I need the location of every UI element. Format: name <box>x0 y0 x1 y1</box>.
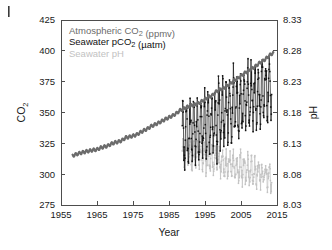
data-point <box>251 160 253 162</box>
data-point <box>205 176 207 178</box>
data-point <box>221 112 223 114</box>
data-point <box>232 94 234 96</box>
x-axis-tick-label: 1965 <box>86 209 107 220</box>
data-point <box>240 93 242 95</box>
x-axis-tick-label: 1955 <box>50 209 71 220</box>
data-point <box>225 156 227 158</box>
data-point <box>196 153 198 155</box>
data-point <box>238 171 240 173</box>
data-point <box>263 117 265 119</box>
data-point <box>254 73 256 75</box>
data-point <box>259 105 261 107</box>
data-point <box>194 125 196 127</box>
data-point <box>266 169 268 171</box>
data-point <box>202 140 204 142</box>
data-point <box>250 107 252 109</box>
figure-container: 2753003253503754004258.038.088.138.188.2… <box>0 0 332 250</box>
data-point <box>269 168 271 170</box>
data-point <box>266 173 268 175</box>
data-point <box>242 121 244 123</box>
legend-entry: Seawater pH <box>69 47 124 58</box>
data-point <box>241 170 243 172</box>
data-point <box>239 95 241 97</box>
data-point <box>227 114 229 116</box>
data-point <box>210 158 212 160</box>
data-point <box>263 104 265 106</box>
data-point <box>248 94 250 96</box>
data-point <box>189 97 191 99</box>
data-point <box>240 84 242 86</box>
data-point <box>189 123 191 125</box>
data-point <box>224 123 226 125</box>
data-point <box>254 173 256 175</box>
data-point <box>227 144 229 146</box>
data-point <box>195 165 197 167</box>
data-point <box>228 171 230 173</box>
data-point <box>214 157 216 159</box>
data-point <box>255 166 256 168</box>
data-point <box>267 122 269 124</box>
y2-axis-tick-label: 8.08 <box>283 169 302 180</box>
data-point <box>217 143 219 145</box>
data-point <box>245 130 247 132</box>
data-point <box>206 146 208 148</box>
data-point <box>210 135 212 137</box>
x-axis-tick-label: 2015 <box>266 209 287 220</box>
data-point <box>222 75 224 77</box>
data-point <box>209 153 211 155</box>
data-point <box>210 127 212 128</box>
data-point <box>239 103 241 105</box>
data-point <box>263 179 265 181</box>
data-point <box>213 175 215 177</box>
data-point <box>196 121 198 123</box>
data-point <box>205 124 207 126</box>
data-point <box>222 149 224 151</box>
data-point <box>233 160 235 162</box>
svg-text:pH: pH <box>307 106 319 119</box>
data-point <box>206 165 208 167</box>
data-point <box>187 150 189 152</box>
data-point <box>240 157 242 159</box>
data-point <box>246 172 248 174</box>
data-point <box>243 90 245 92</box>
y2-axis-tick-label: 8.23 <box>283 76 302 87</box>
data-point <box>211 144 213 146</box>
data-point <box>246 105 248 107</box>
data-point <box>265 165 267 167</box>
data-point <box>265 79 267 81</box>
data-point <box>267 186 269 188</box>
data-point <box>205 133 207 135</box>
data-point <box>269 80 271 82</box>
data-point <box>250 83 252 85</box>
data-point <box>201 159 203 161</box>
data-point <box>244 83 246 85</box>
data-point <box>229 95 231 97</box>
data-point <box>237 157 239 159</box>
data-point <box>197 140 199 142</box>
data-point <box>234 125 236 127</box>
data-point <box>191 149 193 151</box>
data-point <box>270 193 272 195</box>
data-point <box>252 120 254 122</box>
data-series-group <box>73 52 274 194</box>
data-point <box>215 100 217 102</box>
data-point <box>223 132 225 134</box>
data-point <box>229 150 231 152</box>
data-point <box>216 134 218 136</box>
data-point <box>195 167 197 169</box>
data-point <box>217 114 219 116</box>
x-axis-title: Year <box>158 226 180 238</box>
data-point <box>183 127 185 129</box>
data-point <box>238 183 240 185</box>
data-point <box>231 142 233 144</box>
data-point <box>202 135 204 137</box>
y-axis-tick-label: 375 <box>39 76 55 87</box>
data-point <box>262 171 264 173</box>
data-point <box>249 181 251 183</box>
data-point <box>260 124 262 126</box>
data-point <box>225 81 227 83</box>
data-point <box>184 157 186 159</box>
data-point <box>270 184 272 186</box>
data-point <box>246 169 248 171</box>
data-point <box>236 163 238 165</box>
